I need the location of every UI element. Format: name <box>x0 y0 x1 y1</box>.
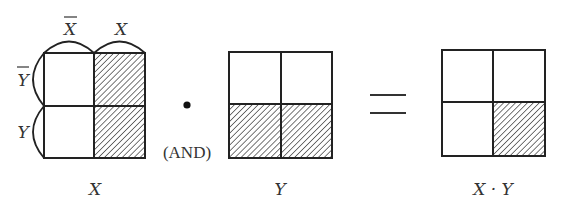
cell-xy-top-left <box>442 50 493 102</box>
caption-x: X <box>87 179 102 199</box>
label-y-bar: Y <box>17 67 30 90</box>
cell-x-bottom-right-shaded <box>94 106 145 158</box>
and-operation-diagram: X X Y Y X (AND) Y <box>0 0 562 212</box>
cell-x-top-left <box>44 53 94 106</box>
caption-x-and-y: X · Y <box>471 179 514 199</box>
cell-x-bottom-left <box>44 106 94 158</box>
bracket-x-arc <box>94 42 145 54</box>
and-operator: (AND) <box>163 101 211 162</box>
cell-xy-bottom-right-shaded <box>493 102 545 156</box>
bracket-x-bar-arc <box>44 42 94 54</box>
label-x-bar: X <box>62 17 77 39</box>
grid-xy: X · Y <box>442 50 545 199</box>
caption-y: Y <box>274 179 287 199</box>
and-dot-icon <box>183 101 190 108</box>
equals-sign-icon <box>370 95 406 113</box>
and-label: (AND) <box>163 143 211 162</box>
cell-xy-top-right <box>493 50 545 102</box>
label-y-bar-text: Y <box>17 70 30 90</box>
label-x-bar-text: X <box>62 19 77 39</box>
cell-y-bottom-right-shaded <box>281 104 332 158</box>
label-x: X <box>113 19 128 39</box>
label-y: Y <box>17 122 30 142</box>
bracket-y-bar-arc <box>33 53 44 106</box>
grid-y: Y <box>229 52 332 199</box>
cell-xy-bottom-left <box>442 102 493 156</box>
cell-x-top-right-shaded <box>94 53 145 106</box>
cell-y-top-right <box>281 52 332 104</box>
cell-y-top-left <box>229 52 281 104</box>
grid-x: X X Y Y X <box>17 17 145 199</box>
bracket-y-arc <box>33 106 44 158</box>
cell-y-bottom-left-shaded <box>229 104 281 158</box>
